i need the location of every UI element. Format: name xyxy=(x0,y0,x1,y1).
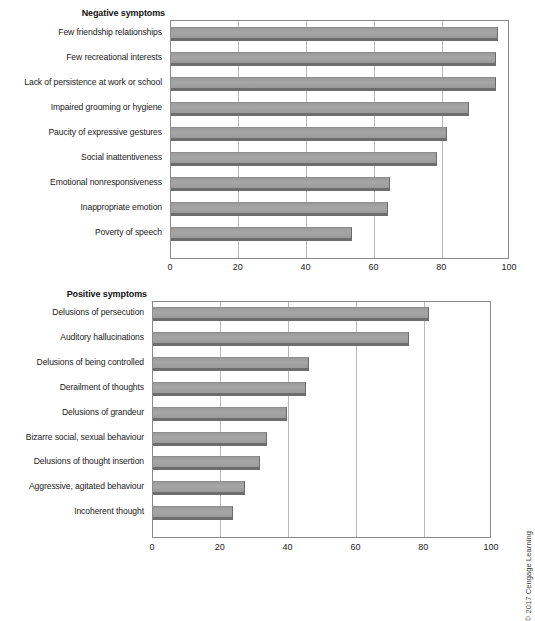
bar-shadow xyxy=(153,492,245,495)
bar xyxy=(153,432,267,443)
category-label: Delusions of thought insertion xyxy=(0,456,144,466)
bar-row xyxy=(171,102,510,116)
bar-shadow xyxy=(153,443,267,446)
category-label: Aggressive, agitated behaviour xyxy=(0,481,144,491)
bar-row xyxy=(171,77,510,91)
x-tick-label-60: 60 xyxy=(358,262,388,272)
bar-row xyxy=(153,506,492,520)
bar-shadow xyxy=(153,343,409,346)
bar-shadow xyxy=(171,88,496,91)
bar xyxy=(153,307,429,318)
bar-shadow xyxy=(171,113,469,116)
bar xyxy=(153,357,309,368)
bar-shadow xyxy=(171,63,496,66)
chart-positive-symptoms: Positive symptoms Delusions of persecuti… xyxy=(0,283,535,565)
bar-shadow xyxy=(171,238,352,241)
bar-row xyxy=(171,202,510,216)
category-label: Social inattentiveness xyxy=(0,152,162,162)
bar-row xyxy=(171,177,510,191)
bar-row xyxy=(153,456,492,470)
bar-row xyxy=(171,27,510,41)
x-tick-label-20: 20 xyxy=(205,542,235,552)
bar xyxy=(153,506,233,517)
category-label: Auditory hallucinations xyxy=(0,332,144,342)
panel-title-negative: Negative symptoms xyxy=(10,8,165,18)
bar-row xyxy=(153,432,492,446)
category-label: Delusions of persecution xyxy=(0,307,144,317)
category-label: Impaired grooming or hygiene xyxy=(0,102,162,112)
x-tick-label-100: 100 xyxy=(476,542,506,552)
bar-shadow xyxy=(153,517,233,520)
bar xyxy=(171,227,352,238)
category-label: Incoherent thought xyxy=(0,506,144,516)
category-label: Lack of persistence at work or school xyxy=(0,77,162,87)
bar xyxy=(171,102,469,113)
bar xyxy=(171,202,388,213)
x-tick-label-40: 40 xyxy=(273,542,303,552)
bar-row xyxy=(153,382,492,396)
category-label: Emotional nonresponsiveness xyxy=(0,177,162,187)
x-tick-label-60: 60 xyxy=(340,542,370,552)
bar-shadow xyxy=(171,188,390,191)
category-label: Few friendship relationships xyxy=(0,27,162,37)
bar-shadow xyxy=(171,213,388,216)
bar xyxy=(153,382,306,393)
x-tick-label-40: 40 xyxy=(291,262,321,272)
bar xyxy=(171,152,437,163)
bar xyxy=(153,456,260,467)
x-tick-label-100: 100 xyxy=(494,262,524,272)
bar xyxy=(153,481,245,492)
bar xyxy=(171,52,496,63)
bar-row xyxy=(153,407,492,421)
bar-row xyxy=(153,332,492,346)
category-label: Inappropriate emotion xyxy=(0,202,162,212)
bar xyxy=(171,177,390,188)
bar-shadow xyxy=(153,318,429,321)
bar-shadow xyxy=(153,393,306,396)
x-tick-label-20: 20 xyxy=(223,262,253,272)
bar-row xyxy=(171,152,510,166)
category-label: Few recreational interests xyxy=(0,52,162,62)
category-label: Delusions of being controlled xyxy=(0,357,144,367)
bar xyxy=(153,407,287,418)
bar-row xyxy=(171,127,510,141)
bar-shadow xyxy=(171,38,498,41)
chart-negative-symptoms: Negative symptoms Few friendship relatio… xyxy=(0,0,535,282)
category-label: Paucity of expressive gestures xyxy=(0,127,162,137)
bar-shadow xyxy=(153,467,260,470)
bar-row xyxy=(171,227,510,241)
panel-title-positive: Positive symptoms xyxy=(0,289,147,299)
x-tick-label-80: 80 xyxy=(426,262,456,272)
bar-row xyxy=(171,52,510,66)
category-label: Poverty of speech xyxy=(0,227,162,237)
bar-row xyxy=(153,307,492,321)
bar-shadow xyxy=(153,368,309,371)
bar xyxy=(153,332,409,343)
copyright-notice: © 2017 Cengage Learning xyxy=(524,531,533,621)
bar-shadow xyxy=(153,418,287,421)
category-label: Derailment of thoughts xyxy=(0,382,144,392)
bar xyxy=(171,77,496,88)
x-tick-label-0: 0 xyxy=(137,542,167,552)
bar-row xyxy=(153,481,492,495)
bar xyxy=(171,127,447,138)
plot-area-negative xyxy=(170,20,509,259)
bar xyxy=(171,27,498,38)
plot-area-positive xyxy=(152,301,491,538)
bar-shadow xyxy=(171,163,437,166)
x-tick-label-0: 0 xyxy=(155,262,185,272)
category-label: Bizarre social, sexual behaviour xyxy=(0,432,144,442)
x-tick-label-80: 80 xyxy=(408,542,438,552)
bar-row xyxy=(153,357,492,371)
category-label: Delusions of grandeur xyxy=(0,407,144,417)
bar-shadow xyxy=(171,138,447,141)
